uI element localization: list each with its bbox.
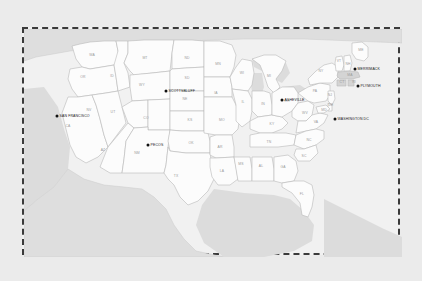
state-shape-IA[interactable] xyxy=(204,77,232,97)
state-label-KS: KS xyxy=(188,118,193,122)
state-shape-UT[interactable] xyxy=(122,100,148,128)
state-label-ND: ND xyxy=(184,56,190,60)
city-dot-icon[interactable] xyxy=(56,115,59,118)
state-label-KY: KY xyxy=(270,122,275,126)
city-label: SAN FRANCISCO xyxy=(60,114,90,118)
us-map-svg[interactable]: WAORCANVIDMTWYUTAZCONMNDSDNEKSOKTXMNIAMO… xyxy=(24,29,402,257)
state-label-MS: MS xyxy=(238,162,244,166)
state-label-IA: IA xyxy=(214,91,218,95)
state-label-CT: CT xyxy=(340,80,345,84)
atlantic-ocean xyxy=(324,199,402,257)
state-label-NH: NH xyxy=(345,62,351,66)
state-label-ID: ID xyxy=(110,74,114,78)
state-shape-TN[interactable] xyxy=(250,133,296,147)
state-shape-ND[interactable] xyxy=(172,40,204,69)
state-label-CA: CA xyxy=(65,124,71,128)
state-shape-CO[interactable] xyxy=(148,99,170,130)
city-label: MERRIMACK xyxy=(358,67,381,71)
city-label: ASHEVILLE xyxy=(285,98,306,102)
city-dot-icon[interactable] xyxy=(165,90,168,93)
state-label-NY: NY xyxy=(318,69,324,73)
state-label-AZ: AZ xyxy=(101,148,106,152)
state-label-OR: OR xyxy=(80,75,86,79)
city-marker[interactable]: ASHEVILLE xyxy=(281,98,306,102)
state-shape-MN[interactable] xyxy=(204,41,236,77)
state-shape-MT[interactable] xyxy=(124,40,174,75)
state-label-VT: VT xyxy=(337,59,342,63)
gulf-of-mexico xyxy=(196,189,314,257)
state-label-NV: NV xyxy=(86,108,92,112)
city-marker[interactable]: MERRIMACK xyxy=(354,67,381,71)
city-marker[interactable]: SAN FRANCISCO xyxy=(56,114,90,118)
city-dot-icon[interactable] xyxy=(354,68,357,71)
state-shape-WA[interactable] xyxy=(72,41,120,69)
city-dot-icon[interactable] xyxy=(147,144,150,147)
state-label-MI: MI xyxy=(267,74,271,78)
state-label-MN: MN xyxy=(215,62,221,66)
state-label-UT: UT xyxy=(111,110,116,114)
state-label-MT: MT xyxy=(142,56,147,60)
state-shape-WY[interactable] xyxy=(130,71,170,101)
state-label-SD: SD xyxy=(184,76,189,80)
state-label-OK: OK xyxy=(188,141,194,145)
state-label-FL: FL xyxy=(300,192,304,196)
state-label-CO: CO xyxy=(143,116,149,120)
city-label: PECOS xyxy=(151,143,164,147)
state-label-WV: WV xyxy=(302,111,308,115)
state-label-RI: RI xyxy=(352,80,356,84)
state-label-NM: NM xyxy=(134,151,140,155)
state-label-WY: WY xyxy=(139,83,145,87)
city-dot-icon[interactable] xyxy=(357,85,360,88)
city-label: PLYMOUTH xyxy=(361,84,381,88)
state-label-NE: NE xyxy=(182,97,188,101)
state-shape-GA[interactable] xyxy=(274,155,298,183)
state-shape-NY[interactable] xyxy=(308,63,338,85)
city-marker[interactable]: PLYMOUTH xyxy=(357,84,381,88)
state-label-MO: MO xyxy=(219,118,225,122)
state-label-WI: WI xyxy=(240,71,244,75)
city-label: WASHINGTON DC xyxy=(338,117,370,121)
city-dot-icon[interactable] xyxy=(281,99,284,102)
map-canvas[interactable]: WAORCANVIDMTWYUTAZCONMNDSDNEKSOKTXMNIAMO… xyxy=(24,29,398,253)
city-marker[interactable]: WASHINGTON DC xyxy=(334,117,370,121)
state-label-VA: VA xyxy=(314,120,319,124)
state-shape-AL[interactable] xyxy=(252,157,274,181)
state-label-AR: AR xyxy=(217,145,222,149)
state-label-DE: DE xyxy=(328,103,334,107)
state-label-IL: IL xyxy=(241,100,244,104)
state-shape-MO[interactable] xyxy=(204,97,240,135)
state-label-ME: ME xyxy=(358,48,364,52)
state-shape-TX[interactable] xyxy=(164,147,214,205)
state-label-IN: IN xyxy=(261,102,265,106)
state-label-WA: WA xyxy=(89,53,95,57)
state-label-MA: MA xyxy=(347,73,353,77)
state-label-MD: MD xyxy=(321,108,327,112)
city-dot-icon[interactable] xyxy=(334,118,337,121)
state-label-NC: NC xyxy=(306,138,312,142)
state-label-LA: LA xyxy=(220,169,225,173)
state-label-PA: PA xyxy=(313,89,318,93)
state-label-AL: AL xyxy=(259,164,263,168)
map-frame: WAORCANVIDMTWYUTAZCONMNDSDNEKSOKTXMNIAMO… xyxy=(22,27,400,255)
state-label-TN: TN xyxy=(267,140,272,144)
state-label-SC: SC xyxy=(301,154,306,158)
state-label-GA: GA xyxy=(280,165,286,169)
state-label-NJ: NJ xyxy=(328,93,333,97)
city-label: SCOTTSBLUFF xyxy=(169,89,195,93)
city-marker[interactable]: SCOTTSBLUFF xyxy=(165,89,195,93)
state-label-TX: TX xyxy=(174,174,179,178)
